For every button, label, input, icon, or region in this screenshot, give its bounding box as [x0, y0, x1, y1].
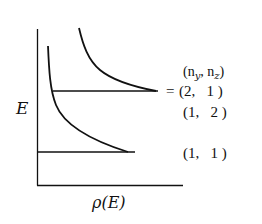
level-label-2-1: (2, 1 )	[179, 83, 223, 100]
rho-argument: (E)	[101, 193, 125, 212]
rho-symbol: ρ	[91, 193, 102, 212]
level-label-1-2: (1, 2 )	[183, 104, 227, 121]
density-of-states-diagram: E ρ(E) (ny, nz) = (2, 1 ) (1, 2 ) (1, 1 …	[0, 0, 262, 224]
dos-curve-upper	[79, 28, 156, 91]
dos-curve-lower	[48, 46, 128, 152]
level-label-1-1: (1, 1 )	[183, 145, 227, 162]
quantum-numbers-header: (ny, nz)	[183, 64, 225, 81]
energy-axis-label: E	[15, 98, 29, 118]
degeneracy-equals-sign: =	[166, 83, 174, 99]
density-axis-label: ρ(E)	[91, 193, 126, 212]
